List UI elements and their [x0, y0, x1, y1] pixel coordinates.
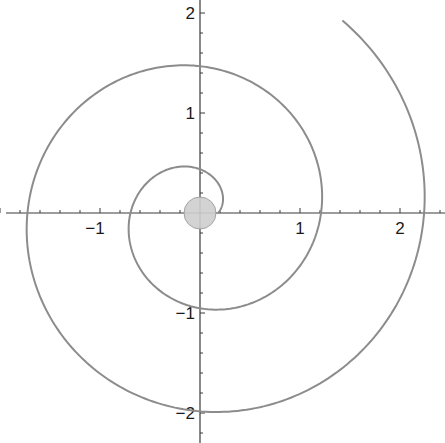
origin-marker — [184, 197, 216, 229]
x-tick-label: −1 — [85, 219, 104, 238]
x-tick-label: 2 — [395, 219, 404, 238]
y-tick-label: 1 — [186, 104, 195, 123]
spiral-curve — [27, 21, 425, 412]
spiral-plot: −112 21−1−2 — [0, 0, 445, 443]
x-tick-labels: −112 — [85, 219, 404, 238]
x-tick-label: 1 — [295, 219, 304, 238]
y-tick-label: 2 — [186, 4, 195, 23]
axes: −112 21−1−2 — [0, 0, 445, 443]
y-tick-label: −2 — [176, 404, 195, 423]
